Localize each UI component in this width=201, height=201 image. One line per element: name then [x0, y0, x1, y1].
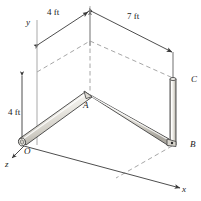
figure-container: 4 ft 7 ft 4 ft O A B C x y z — [0, 0, 201, 201]
pipe-ab-highlight — [87, 94, 170, 141]
dimension-label-4ft-height: 4 ft — [8, 108, 20, 117]
pipe-end-cap-c — [170, 78, 176, 81]
joint-b-dot — [171, 142, 173, 144]
dimension-label-7ft-top: 7 ft — [127, 12, 139, 21]
axis-label-y: y — [26, 18, 30, 27]
point-label-a: A — [83, 101, 89, 110]
axis-label-z: z — [5, 160, 9, 169]
pipe-oa-highlight — [21, 94, 87, 141]
z-axis-line — [12, 146, 24, 158]
point-label-b: B — [190, 140, 196, 149]
point-label-c: C — [191, 75, 197, 84]
point-label-o: O — [24, 147, 31, 156]
pipe-segment-oa — [19, 92, 92, 145]
axis-label-x: x — [182, 185, 186, 194]
pipe-segment-bc — [170, 79, 176, 145]
dimension-label-4ft-top: 4 ft — [47, 8, 59, 17]
construction-dashed-lines — [37, 41, 173, 178]
coordinate-axes — [12, 146, 180, 188]
x-axis-line — [24, 146, 180, 188]
guide-lines — [37, 6, 173, 145]
pipe-assembly-diagram — [0, 0, 201, 201]
